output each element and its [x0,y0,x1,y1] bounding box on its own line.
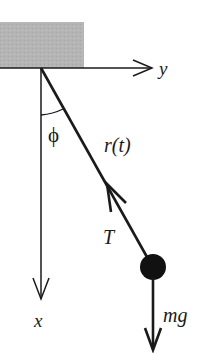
pendulum-string [41,68,147,257]
x-axis [33,68,49,299]
angle-arc [41,109,63,115]
weight-label: mg [163,304,187,327]
pendulum-bob [140,254,166,280]
y-axis-label: y [157,58,168,79]
weight-arrow [145,278,161,350]
string-length-label: r(t) [104,134,131,157]
x-axis-label: x [33,310,43,331]
ceiling-support [0,22,84,68]
angle-label: ϕ [48,123,59,147]
pendulum-diagram: y x ϕ r(t) T mg [0,0,199,353]
tension-arrowhead-icon [107,184,126,212]
tension-label: T [103,226,116,248]
